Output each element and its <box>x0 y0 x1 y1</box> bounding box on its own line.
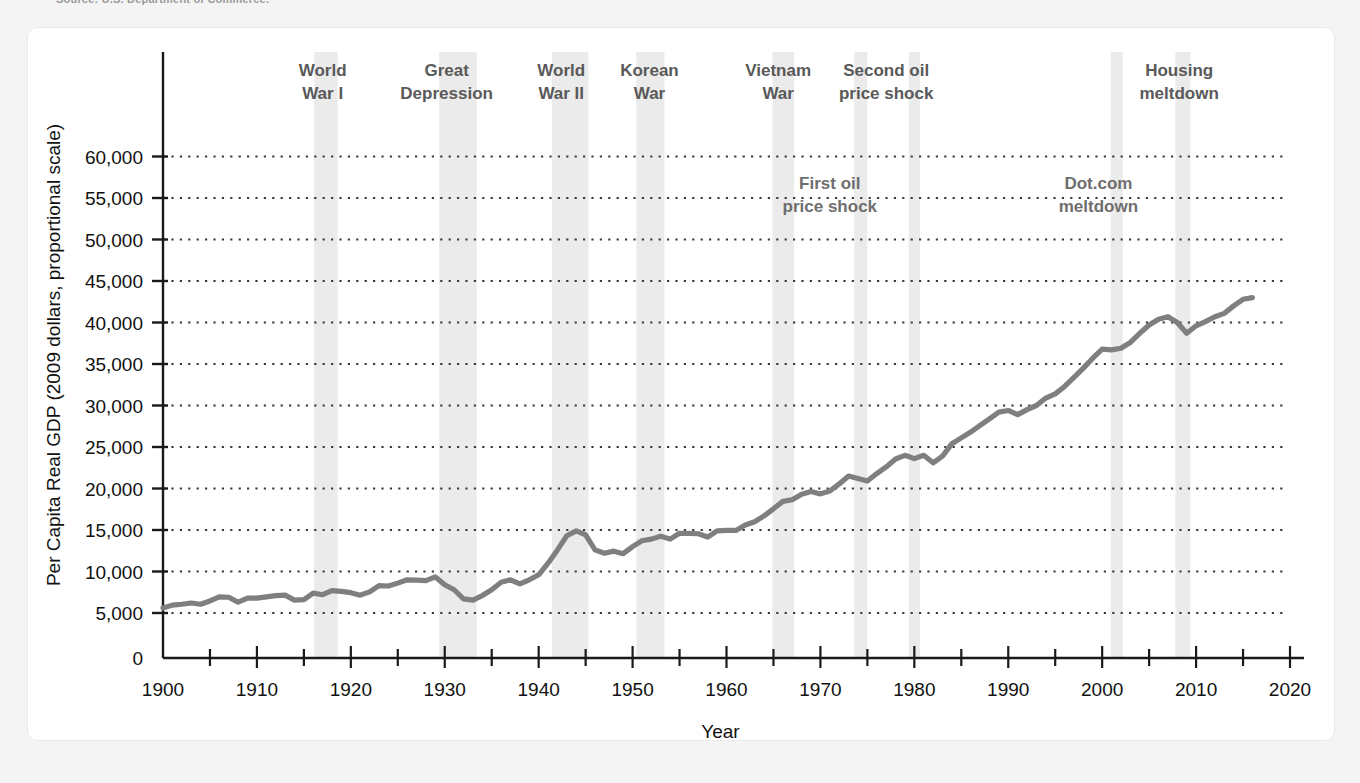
axis-ticks-layer: 05,00010,00015,00020,00025,00030,00035,0… <box>85 147 1311 701</box>
x-tick-label-2020: 2020 <box>1269 679 1311 700</box>
event-label-line: War I <box>302 84 343 103</box>
y-tick-label-60000: 60,000 <box>85 147 143 168</box>
x-tick-label-1940: 1940 <box>518 679 560 700</box>
band-world-war-i <box>314 52 337 658</box>
band-great-depression <box>439 52 477 658</box>
y-tick-label-40000: 40,000 <box>85 313 143 334</box>
event-label-line: Korean <box>620 61 679 80</box>
y-tick-label-20000: 20,000 <box>85 479 143 500</box>
event-label-line: World <box>537 61 585 80</box>
y-tick-label-50000: 50,000 <box>85 230 143 251</box>
band-dot-com-meltdown <box>1111 52 1123 658</box>
x-tick-label-1960: 1960 <box>705 679 747 700</box>
y-tick-label-55000: 55,000 <box>85 188 143 209</box>
y-tick-label-15000: 15,000 <box>85 520 143 541</box>
event-label-line: War II <box>538 84 584 103</box>
event-label-line: meltdown <box>1059 197 1138 216</box>
x-tick-label-1980: 1980 <box>893 679 935 700</box>
x-axis-title: Year <box>701 721 740 742</box>
event-label-line: War <box>762 84 794 103</box>
band-world-war-ii <box>552 52 589 658</box>
axis-titles-layer: Per Capita Real GDP (2009 dollars, propo… <box>43 124 740 742</box>
event-label-line: meltdown <box>1140 84 1219 103</box>
x-tick-label-1910: 1910 <box>236 679 278 700</box>
event-label-line: War <box>634 84 666 103</box>
x-tick-label-1950: 1950 <box>611 679 653 700</box>
y-tick-label-10000: 10,000 <box>85 562 143 583</box>
y-tick-label-45000: 45,000 <box>85 271 143 292</box>
event-label-line: Second oil <box>843 61 929 80</box>
gdp-line-chart: 05,00010,00015,00020,00025,00030,00035,0… <box>0 0 1360 783</box>
event-labels-layer: WorldWar IGreatDepressionWorldWar IIKore… <box>299 61 1219 216</box>
y-tick-label-35000: 35,000 <box>85 354 143 375</box>
x-tick-label-1930: 1930 <box>424 679 466 700</box>
x-tick-label-1900: 1900 <box>142 679 184 700</box>
event-label-line: price shock <box>839 84 934 103</box>
event-label-dot-com-meltdown: Dot.commeltdown <box>1059 174 1138 216</box>
event-label-line: price shock <box>783 197 878 216</box>
event-label-line: World <box>299 61 347 80</box>
x-tick-label-1990: 1990 <box>987 679 1029 700</box>
chart-container: 05,00010,00015,00020,00025,00030,00035,0… <box>0 0 1360 783</box>
event-bands-layer <box>314 52 1190 658</box>
y-tick-label-30000: 30,000 <box>85 396 143 417</box>
x-tick-label-1970: 1970 <box>799 679 841 700</box>
band-vietnam-war <box>773 52 795 658</box>
band-korean-war <box>636 52 664 658</box>
band-first-oil-price-shock <box>854 52 867 658</box>
y-tick-label-25000: 25,000 <box>85 437 143 458</box>
y-axis-title: Per Capita Real GDP (2009 dollars, propo… <box>43 124 64 586</box>
event-label-line: Dot.com <box>1064 174 1132 193</box>
y-tick-label-0: 0 <box>132 648 143 669</box>
event-label-line: First oil <box>799 174 860 193</box>
event-label-line: Depression <box>400 84 493 103</box>
event-label-line: Housing <box>1145 61 1213 80</box>
x-tick-label-2000: 2000 <box>1081 679 1123 700</box>
event-label-line: Great <box>424 61 469 80</box>
y-tick-label-5000: 5,000 <box>95 603 143 624</box>
x-tick-label-1920: 1920 <box>330 679 372 700</box>
x-tick-label-2010: 2010 <box>1175 679 1217 700</box>
band-housing-meltdown <box>1175 52 1190 658</box>
event-label-line: Vietnam <box>745 61 811 80</box>
band-second-oil-price-shock <box>909 52 920 658</box>
